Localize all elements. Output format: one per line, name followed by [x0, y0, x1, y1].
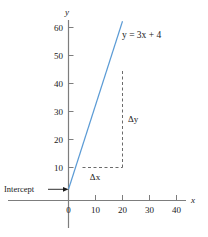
- x-tick-label: 0: [66, 205, 71, 215]
- intercept-arrow-head: [63, 187, 69, 192]
- coordinate-plot-svg: x y 0 10 20 30 40 10 20: [0, 0, 208, 237]
- y-tick-group: [69, 28, 74, 168]
- delta-y-label: Δy: [128, 114, 139, 124]
- graph-figure: x y 0 10 20 30 40 10 20: [0, 0, 208, 237]
- y-tick-label: 40: [54, 79, 64, 89]
- x-tick-group: [69, 195, 177, 201]
- data-line-series: [69, 21, 123, 189]
- y-tick-label: 10: [54, 163, 64, 173]
- y-tick-label: 20: [54, 135, 64, 145]
- x-tick-label: 10: [91, 205, 101, 215]
- y-tick-labels: 10 20 30 40 50 60: [54, 23, 64, 173]
- x-tick-labels: 0 10 20 30 40: [66, 205, 181, 215]
- x-tick-label: 30: [145, 205, 155, 215]
- equation-label: y = 3x + 4: [122, 30, 161, 40]
- y-tick-label: 60: [54, 23, 64, 33]
- y-tick-label: 30: [54, 107, 64, 117]
- x-tick-label: 20: [118, 205, 128, 215]
- x-tick-label: 40: [172, 205, 182, 215]
- y-axis-label: y: [64, 7, 69, 17]
- y-tick-label: 50: [54, 51, 64, 61]
- x-axis-label: x: [190, 195, 195, 205]
- intercept-label: Intercept: [4, 184, 35, 194]
- delta-x-label: Δx: [90, 172, 101, 182]
